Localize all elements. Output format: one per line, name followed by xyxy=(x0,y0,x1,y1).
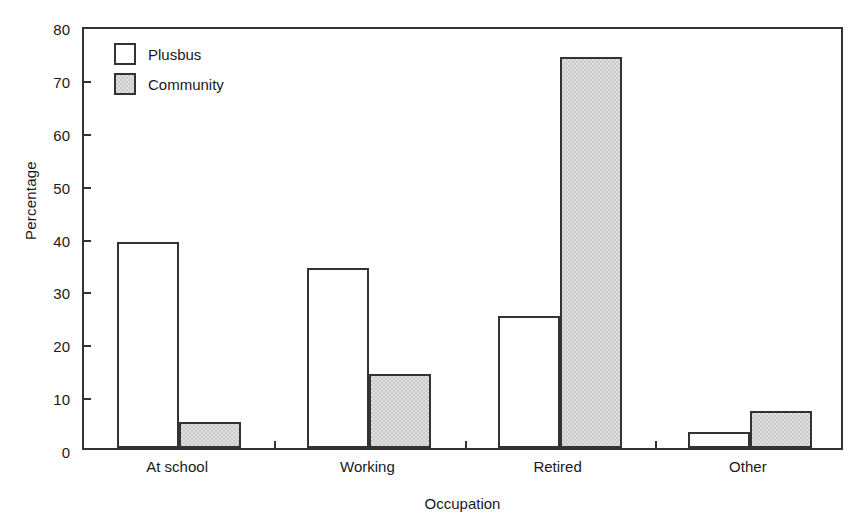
y-tick-label: 80 xyxy=(14,22,84,37)
bar-community-at-school xyxy=(179,422,241,448)
bar-chart-figure: Percentage Occupation 01020304050607080 … xyxy=(0,0,857,530)
x-category-label: At school xyxy=(146,458,208,475)
y-tick-mark xyxy=(84,345,91,347)
y-tick-label: 20 xyxy=(14,339,84,354)
plot-area: 01020304050607080 Plusbus Community xyxy=(82,27,843,450)
x-axis-title: Occupation xyxy=(82,495,843,512)
y-tick-label: 40 xyxy=(14,233,84,248)
x-tick-mark xyxy=(274,441,276,448)
y-tick-mark xyxy=(84,240,91,242)
bar-community-retired xyxy=(560,57,622,448)
bar-community-other xyxy=(750,411,812,448)
legend-entry-plusbus: Plusbus xyxy=(114,43,224,65)
y-tick-label: 10 xyxy=(14,392,84,407)
x-category-label: Other xyxy=(729,458,767,475)
y-tick-mark xyxy=(84,292,91,294)
chart-legend: Plusbus Community xyxy=(114,43,224,95)
bar-plusbus-working xyxy=(307,268,369,448)
legend-label-plusbus: Plusbus xyxy=(148,46,201,63)
y-tick-mark xyxy=(84,81,91,83)
legend-swatch-plusbus xyxy=(114,43,136,65)
legend-entry-community: Community xyxy=(114,73,224,95)
y-tick-mark xyxy=(84,187,91,189)
y-tick-label: 70 xyxy=(14,74,84,89)
y-tick-label: 50 xyxy=(14,180,84,195)
x-tick-mark xyxy=(465,441,467,448)
bar-plusbus-at-school xyxy=(117,242,179,448)
x-category-label: Retired xyxy=(533,458,581,475)
bar-plusbus-retired xyxy=(498,316,560,448)
bar-community-working xyxy=(369,374,431,448)
legend-swatch-community xyxy=(114,73,136,95)
y-tick-label: 30 xyxy=(14,286,84,301)
x-category-label: Working xyxy=(340,458,395,475)
y-tick-mark xyxy=(84,134,91,136)
x-tick-mark xyxy=(655,441,657,448)
y-tick-label: 60 xyxy=(14,127,84,142)
bar-plusbus-other xyxy=(688,432,750,448)
y-tick-label: 0 xyxy=(14,445,84,460)
y-tick-mark xyxy=(84,398,91,400)
legend-label-community: Community xyxy=(148,76,224,93)
